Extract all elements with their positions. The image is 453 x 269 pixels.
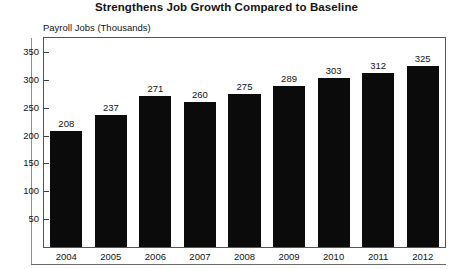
y-tick-mark <box>44 191 49 192</box>
bar-value-label: 237 <box>89 102 134 113</box>
y-tick-label: 100 <box>23 185 39 197</box>
bar <box>184 102 216 247</box>
chart-title: Strengthens Job Growth Compared to Basel… <box>0 1 453 13</box>
y-tick-mark <box>44 136 49 137</box>
bar <box>407 66 439 247</box>
bar-value-label: 303 <box>311 65 356 76</box>
bar <box>228 94 260 247</box>
bar-value-label: 271 <box>133 83 178 94</box>
y-axis-ticks: 50100150200250300350 <box>0 37 39 248</box>
x-tick-label: 2007 <box>178 251 223 262</box>
y-tick-mark <box>44 80 49 81</box>
bar-value-label: 260 <box>178 89 223 100</box>
bar <box>139 96 171 247</box>
bar <box>273 86 305 247</box>
y-tick-mark <box>44 108 49 109</box>
bar-value-label: 312 <box>356 60 401 71</box>
y-tick-label: 300 <box>23 74 39 86</box>
plot-area: 208237271260275289303312325 <box>44 38 445 247</box>
y-tick-label: 50 <box>28 213 39 225</box>
x-tick-label: 2011 <box>356 251 401 262</box>
bar <box>95 115 127 247</box>
bar <box>362 73 394 247</box>
x-tick-label: 2005 <box>89 251 134 262</box>
x-tick-label: 2006 <box>133 251 178 262</box>
x-tick-label: 2004 <box>44 251 89 262</box>
bar-value-label: 325 <box>400 53 445 64</box>
bar-value-label: 289 <box>267 73 312 84</box>
bar-value-label: 275 <box>222 81 267 92</box>
y-tick-mark <box>44 52 49 53</box>
y-tick-label: 250 <box>23 102 39 114</box>
bar <box>50 131 82 247</box>
y-tick-label: 150 <box>23 157 39 169</box>
x-tick-label: 2012 <box>400 251 445 262</box>
bar-chart: Strengthens Job Growth Compared to Basel… <box>0 0 453 269</box>
outer-frame-bottom-rule <box>31 264 446 265</box>
x-tick-label: 2010 <box>311 251 356 262</box>
bar <box>318 78 350 247</box>
x-tick-label: 2008 <box>222 251 267 262</box>
y-tick-mark <box>44 219 49 220</box>
bar-value-label: 208 <box>44 118 89 129</box>
y-axis-label: Payroll Jobs (Thousands) <box>43 22 151 33</box>
y-tick-mark <box>44 163 49 164</box>
x-tick-label: 2009 <box>267 251 312 262</box>
y-tick-label: 350 <box>23 46 39 58</box>
y-tick-label: 200 <box>23 130 39 142</box>
